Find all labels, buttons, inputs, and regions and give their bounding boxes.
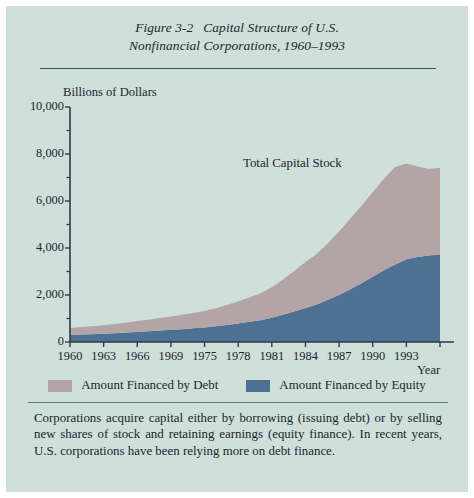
y-axis-tick-label: 0 bbox=[12, 334, 64, 349]
legend-item-debt: Amount Financed by Debt bbox=[48, 378, 218, 393]
y-axis-tick-label: 10,000 bbox=[12, 99, 64, 114]
legend-label-equity: Amount Financed by Equity bbox=[279, 378, 425, 393]
x-axis-label: Year bbox=[417, 363, 440, 378]
legend-swatch-equity bbox=[246, 380, 270, 392]
caption-divider bbox=[28, 402, 448, 403]
legend-item-equity: Amount Financed by Equity bbox=[246, 378, 425, 393]
y-axis-tick-label: 4,000 bbox=[12, 240, 64, 255]
legend-label-debt: Amount Financed by Debt bbox=[81, 378, 218, 393]
figure-caption: Corporations acquire capital either by b… bbox=[34, 410, 442, 459]
total-capital-stock-annotation: Total Capital Stock bbox=[243, 156, 342, 171]
chart-legend: Amount Financed by DebtAmount Financed b… bbox=[6, 378, 468, 393]
y-axis-tick-label: 6,000 bbox=[12, 193, 64, 208]
y-axis-tick-label: 2,000 bbox=[12, 287, 64, 302]
y-axis-tick-label: 8,000 bbox=[12, 146, 64, 161]
x-axis-tick-label: 1993 bbox=[384, 349, 428, 364]
area-series-group bbox=[70, 163, 440, 342]
figure-panel: Figure 3-2Capital Structure of U.S. Nonf… bbox=[6, 6, 468, 492]
legend-swatch-debt bbox=[48, 380, 72, 392]
